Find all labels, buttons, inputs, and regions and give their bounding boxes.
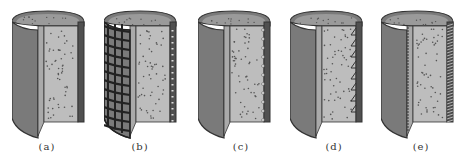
label-e: (e) xyxy=(401,141,441,152)
specimen-b xyxy=(104,0,198,160)
specimen-a xyxy=(12,0,106,160)
label-a: (a) xyxy=(27,141,67,152)
specimen-d xyxy=(290,0,384,160)
label-d: (d) xyxy=(314,141,354,152)
specimen-e xyxy=(381,0,470,160)
specimen-c xyxy=(198,0,292,160)
label-b: (b) xyxy=(120,141,160,152)
label-c: (c) xyxy=(221,141,261,152)
